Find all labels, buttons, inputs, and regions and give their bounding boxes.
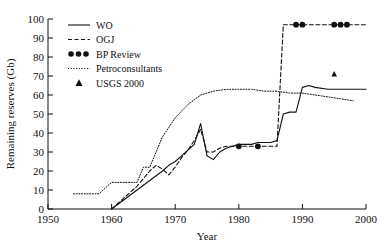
legend-swatch-dots [76, 51, 82, 57]
y-tick-label: 30 [33, 146, 45, 158]
y-tick-label: 100 [28, 13, 45, 25]
x-tick-label: 1960 [101, 213, 124, 225]
y-tick-label: 20 [33, 165, 45, 177]
legend-label: USGS 2000 [96, 78, 144, 89]
legend-swatch-dots [83, 51, 89, 57]
y-axis-title: Remaining reserves (Gb) [4, 58, 17, 169]
bp-review-point [331, 22, 337, 28]
x-tick-label: 1990 [291, 213, 314, 225]
bp-review-point [293, 22, 299, 28]
y-tick-label: 60 [33, 89, 45, 101]
y-tick-label: 90 [33, 32, 45, 44]
bp-review-point [344, 22, 350, 28]
chart-background [0, 0, 381, 245]
y-tick-label: 70 [33, 70, 45, 82]
y-tick-label: 50 [33, 108, 45, 120]
legend-label: BP Review [96, 49, 142, 60]
x-tick-label: 1980 [228, 213, 251, 225]
y-tick-label: 40 [33, 127, 45, 139]
legend-swatch-dots [68, 51, 74, 57]
y-tick-label: 10 [33, 184, 45, 196]
reserves-line-chart: 0102030405060708090100 19501960197019801… [0, 0, 381, 245]
bp-review-point [338, 22, 344, 28]
x-tick-label: 1970 [164, 213, 187, 225]
bp-review-point [255, 143, 261, 149]
legend-label: Petroconsultants [96, 63, 162, 74]
bp-review-point [300, 22, 306, 28]
x-tick-label: 1950 [37, 213, 60, 225]
x-tick-label: 2000 [355, 213, 378, 225]
legend-label: OGJ [96, 34, 114, 45]
chart-figure: 0102030405060708090100 19501960197019801… [0, 0, 381, 245]
legend-label: WO [96, 20, 113, 31]
x-axis-title: Year [197, 230, 218, 242]
y-tick-label: 80 [33, 51, 45, 63]
bp-review-point [236, 143, 242, 149]
